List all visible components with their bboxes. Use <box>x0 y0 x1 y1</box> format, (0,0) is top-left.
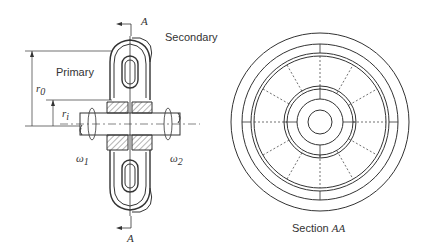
coupling-cross-section <box>25 22 200 230</box>
omega2-label: ω2 <box>170 152 183 167</box>
omega1-label: ω1 <box>76 152 89 167</box>
inner-radius-label: ri <box>62 107 69 122</box>
primary-label: Primary <box>56 66 94 78</box>
section-marker-top: A <box>141 15 148 27</box>
section-aa-view <box>231 33 409 211</box>
outer-radius-label: r0 <box>36 82 45 97</box>
section-aa-caption: Section AA <box>292 222 345 234</box>
secondary-label: Secondary <box>165 31 218 43</box>
section-marker-bottom: A <box>127 232 134 244</box>
